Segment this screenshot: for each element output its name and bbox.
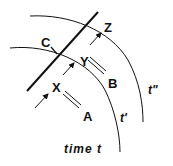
label-b: B — [108, 76, 117, 91]
diagram-canvas: C X Y Z A B t" t' time t — [0, 0, 173, 166]
wavefront-arc-t — [10, 47, 120, 152]
label-y: Y — [80, 54, 89, 69]
label-time-t: time t — [64, 142, 102, 156]
arrow-to-x — [35, 94, 48, 108]
arrow-to-z — [90, 33, 101, 45]
line-c — [27, 12, 98, 91]
arrow-to-y — [63, 63, 74, 75]
label-x: X — [52, 80, 61, 95]
label-t-prime: t' — [120, 111, 128, 125]
label-a: A — [83, 109, 93, 124]
label-t-double-prime: t" — [148, 83, 158, 97]
c-pointer — [51, 47, 57, 54]
label-c: C — [41, 35, 51, 50]
label-z: Z — [104, 20, 112, 35]
